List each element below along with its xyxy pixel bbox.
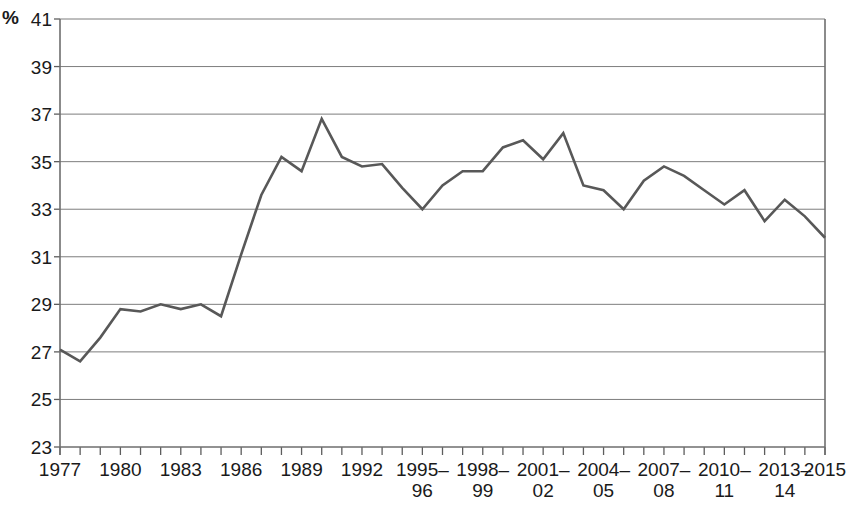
x-axis-tick-marks: [60, 447, 825, 455]
chart-plot-area: [0, 0, 867, 515]
data-series-line: [60, 119, 825, 362]
horizontal-gridlines: [54, 19, 825, 447]
line-chart-figure: % 23252729313335373941 19771980198319861…: [0, 0, 867, 515]
